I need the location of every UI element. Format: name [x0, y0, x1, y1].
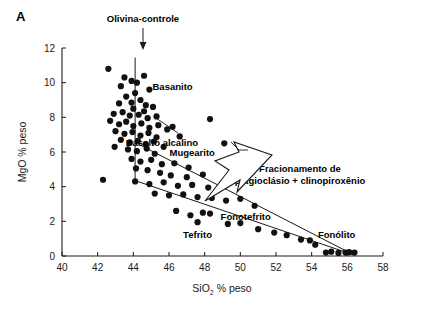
x-axis-title-main: SiO [192, 282, 210, 294]
data-point [132, 178, 138, 184]
data-point [130, 106, 136, 112]
data-point [237, 196, 243, 202]
data-point [335, 250, 341, 256]
data-point [157, 170, 163, 176]
data-point [134, 148, 140, 154]
data-point [312, 242, 318, 248]
data-point [148, 157, 154, 163]
data-point [150, 104, 156, 110]
data-point [200, 210, 206, 216]
y-axis-ticks: 024681012 [44, 43, 66, 262]
data-point [118, 137, 124, 143]
data-point [351, 249, 357, 255]
data-point [189, 182, 195, 188]
data-point [255, 226, 261, 232]
data-point [223, 197, 229, 203]
x-tick-label: 44 [128, 262, 140, 273]
data-point [107, 118, 113, 124]
data-point [129, 129, 135, 135]
x-tick-label: 50 [235, 262, 247, 273]
data-point [128, 78, 134, 84]
figure-panel-a: A 40424446485052545658 024681012 Olivina… [0, 0, 421, 309]
data-point [186, 165, 192, 171]
data-point [307, 237, 313, 243]
data-point [271, 230, 277, 236]
data-point [184, 174, 190, 180]
data-point [166, 192, 172, 198]
data-point [138, 120, 144, 126]
x-axis-title-tail: % peso [214, 282, 252, 294]
olivine-control-label: Olivina-controle [107, 13, 179, 24]
data-point [118, 83, 124, 89]
data-point [323, 249, 329, 255]
data-point [116, 121, 122, 127]
data-point [121, 74, 127, 80]
olivine-arrow-head [140, 42, 147, 50]
x-tick-label: 58 [377, 262, 389, 273]
data-point [194, 194, 200, 200]
data-point [200, 171, 206, 177]
field-label: Basanito [153, 81, 193, 92]
data-point [112, 128, 118, 134]
field-label: Tefrito [183, 229, 212, 240]
data-point [141, 108, 147, 114]
y-tick-label: 6 [49, 147, 55, 158]
data-point [252, 203, 258, 209]
y-axis-title: MgO % peso [16, 121, 28, 182]
data-point [328, 249, 334, 255]
data-point [145, 130, 151, 136]
x-tick-label: 52 [270, 262, 282, 273]
data-point [123, 93, 129, 99]
data-point [111, 111, 117, 117]
data-point [146, 181, 152, 187]
data-point [155, 122, 161, 128]
fractionation-label-line2: plagioclásio + clinopiroxênio [235, 175, 366, 186]
scatter-plot: 40424446485052545658 024681012 Olivina-c… [0, 0, 421, 309]
data-point [168, 172, 174, 178]
data-point [207, 116, 213, 122]
x-tick-label: 56 [342, 262, 354, 273]
y-tick-label: 10 [44, 77, 56, 88]
x-tick-label: 54 [306, 262, 318, 273]
data-point [171, 160, 177, 166]
data-point [346, 249, 352, 255]
data-point [187, 212, 193, 218]
y-tick-label: 12 [44, 43, 56, 54]
data-point [161, 179, 167, 185]
fractionation-annotation: Fracionamento de plagioclásio + clinopir… [205, 142, 366, 201]
x-axis-title: SiO2 % peso [192, 282, 252, 296]
data-point [123, 119, 129, 125]
data-point [130, 123, 136, 129]
data-point [100, 177, 106, 183]
x-tick-label: 40 [56, 262, 68, 273]
data-point [127, 113, 133, 119]
field-label: Mugearito [169, 147, 215, 158]
data-point [137, 158, 143, 164]
data-point [116, 100, 122, 106]
data-point [194, 219, 200, 225]
x-tick-label: 46 [163, 262, 175, 273]
data-point [137, 97, 143, 103]
x-tick-label: 42 [92, 262, 104, 273]
field-label: Fonotefrito [221, 211, 271, 222]
data-point [298, 236, 304, 242]
data-point [145, 167, 151, 173]
data-point [173, 208, 179, 214]
data-point [141, 73, 147, 79]
data-point [207, 210, 213, 216]
data-point [128, 156, 134, 162]
x-tick-label: 48 [199, 262, 211, 273]
data-point [143, 102, 149, 108]
data-point [159, 161, 165, 167]
data-point [152, 191, 158, 197]
data-point [284, 232, 290, 238]
data-point [152, 151, 158, 157]
data-point [136, 112, 142, 118]
y-tick-label: 0 [49, 251, 55, 262]
data-point [112, 144, 118, 150]
data-point [132, 90, 138, 96]
fractionation-label-line1: Fracionamento de [259, 163, 341, 174]
y-tick-label: 2 [49, 216, 55, 227]
data-point [120, 109, 126, 115]
data-point [221, 140, 227, 146]
